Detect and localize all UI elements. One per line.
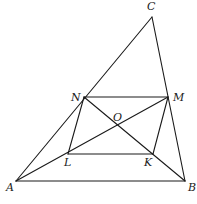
segments-group [16, 17, 185, 181]
segment-nl [68, 97, 84, 154]
point-label-o: O [113, 111, 122, 124]
segment-nb [84, 97, 185, 181]
point-label-c: C [147, 0, 156, 13]
geometry-diagram: A B C N M L K O [0, 0, 197, 204]
point-label-a: A [5, 181, 14, 194]
point-label-l: L [63, 156, 71, 169]
point-label-n: N [70, 91, 81, 104]
point-label-k: K [143, 156, 153, 169]
point-label-m: M [172, 91, 185, 104]
point-label-b: B [187, 181, 196, 194]
segment-mk [153, 97, 168, 154]
